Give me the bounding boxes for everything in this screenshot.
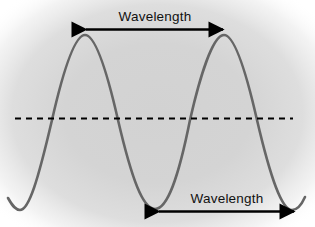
wavelength-diagram: Wavelength Wavelength bbox=[0, 0, 315, 227]
diagram-canvas: Wavelength Wavelength bbox=[0, 0, 315, 227]
background-vignette bbox=[0, 0, 315, 227]
top-wavelength-label: Wavelength bbox=[119, 9, 192, 24]
bottom-wavelength-label: Wavelength bbox=[191, 191, 264, 206]
